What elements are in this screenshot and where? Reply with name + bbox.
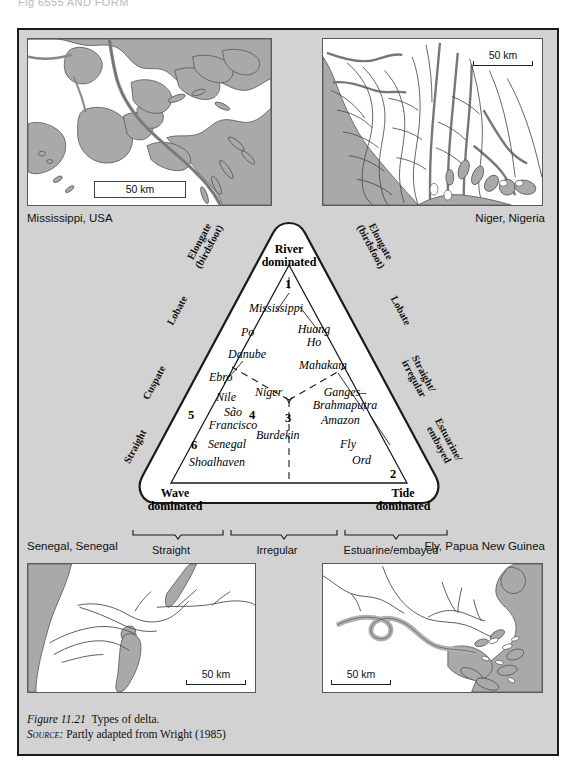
- delta-number-2: 2: [390, 467, 396, 482]
- apex-line1: River: [275, 242, 304, 256]
- delta-label-sao-francisco: São Francisco: [202, 406, 264, 432]
- scalebar-label: 50 km: [126, 183, 155, 195]
- delta-label-senegal: Senegal: [208, 437, 246, 452]
- delta-label-amazon: Amazon: [321, 413, 360, 428]
- delta-classification-triangle: River dominated Wave dominated Tide domi…: [124, 215, 454, 540]
- map-senegal: 50 km: [27, 563, 256, 693]
- map-caption-mississippi: Mississippi, USA: [27, 212, 113, 224]
- bottom-class-irregular: Irregular: [247, 544, 307, 556]
- ganges-line2: Brahmaputra: [313, 398, 378, 412]
- delta-label-ganges-brahmaputra: Ganges– Brahmaputra: [302, 386, 388, 412]
- delta-number-5: 5: [188, 408, 194, 423]
- right-corner-line2: dominated: [376, 499, 431, 513]
- delta-label-mahakam: Mahakam: [299, 358, 347, 373]
- figure-panel: 50 km Mississippi, USA: [17, 28, 559, 756]
- apex-line2: dominated: [262, 255, 317, 269]
- delta-number-6: 6: [191, 438, 197, 453]
- delta-number-1: 1: [285, 277, 291, 292]
- scalebar-fly: 50 km: [331, 668, 391, 685]
- left-corner-line1: Wave: [161, 486, 190, 500]
- huang-ho-line1: Huang: [298, 322, 331, 336]
- map-caption-niger: Niger, Nigeria: [475, 212, 545, 224]
- bottom-class-estuarine-embayed: Estuarine/embayed: [336, 544, 446, 556]
- scalebar-senegal: 50 km: [186, 668, 246, 685]
- delta-label-ord: Ord: [352, 453, 371, 468]
- figure-caption-line1: Figure 11.21 Types of delta.: [27, 712, 226, 727]
- scalebar-bar: [331, 680, 391, 685]
- huang-ho-line2: Ho: [307, 335, 322, 349]
- delta-label-ebro: Ebro: [209, 370, 233, 385]
- bottom-bracket-row: [131, 528, 451, 544]
- ganges-line1: Ganges–: [324, 385, 367, 399]
- figure-title: Types of delta.: [92, 713, 160, 725]
- scalebar-bar: [473, 61, 533, 66]
- delta-label-danube: Danube: [228, 347, 266, 362]
- delta-label-nile: Nile: [216, 390, 236, 405]
- sao-line1: São: [224, 405, 242, 419]
- scalebar-niger: 50 km: [473, 49, 533, 66]
- map-caption-senegal: Senegal, Senegal: [27, 540, 118, 552]
- right-corner-line1: Tide: [391, 486, 414, 500]
- map-mississippi: 50 km: [27, 38, 272, 206]
- source-text: Partly adapted from Wright (1985): [66, 728, 226, 740]
- delta-label-fly: Fly: [340, 437, 356, 452]
- delta-label-burdekin: Burdekin: [256, 428, 300, 443]
- map-fly: 50 km: [322, 563, 543, 693]
- cut-off-header-text: Fig 6555 AND FORM: [18, 0, 129, 8]
- delta-label-huang-ho: Huang Ho: [292, 323, 336, 349]
- sao-line2: Francisco: [209, 418, 258, 432]
- delta-label-po: Po: [241, 325, 254, 340]
- delta-label-shoalhaven: Shoalhaven: [189, 455, 245, 470]
- map-niger: 50 km: [322, 38, 543, 206]
- figure-number: Figure 11.21: [27, 713, 86, 725]
- triangle-apex-label: River dominated: [244, 243, 334, 269]
- source-label: Source:: [27, 728, 63, 740]
- left-corner-line2: dominated: [148, 499, 203, 513]
- scalebar-label: 50 km: [489, 49, 518, 61]
- figure-caption-line2: Source: Partly adapted from Wright (1985…: [27, 727, 226, 742]
- figure-caption: Figure 11.21 Types of delta. Source: Par…: [27, 712, 226, 742]
- triangle-right-corner-label: Tide dominated: [360, 487, 446, 513]
- scalebar-bar: [186, 680, 246, 685]
- scalebar-label: 50 km: [347, 668, 376, 680]
- bottom-class-straight: Straight: [141, 544, 201, 556]
- delta-label-niger: Niger: [255, 385, 282, 400]
- scalebar-mississippi: 50 km: [94, 181, 186, 198]
- scalebar-label: 50 km: [202, 668, 231, 680]
- triangle-left-corner-label: Wave dominated: [132, 487, 218, 513]
- delta-number-3: 3: [285, 411, 291, 426]
- delta-label-mississippi: Mississippi: [249, 301, 303, 316]
